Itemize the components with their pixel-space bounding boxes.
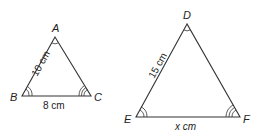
triangle-abc: A B C 10 cm 8 cm [10, 22, 102, 111]
vertex-b-label: B [10, 91, 17, 103]
vertex-a-label: A [51, 22, 59, 34]
side-ab-label: 10 cm [29, 49, 52, 78]
similar-triangles-diagram: A B C 10 cm 8 cm D E F 15 cm x cm [0, 0, 261, 137]
vertex-f-label: F [243, 113, 251, 125]
side-ef-variable: x cm [174, 121, 196, 132]
side-de-label: 15 cm [146, 51, 169, 80]
triangle-def: D E F 15 cm x cm [124, 9, 251, 132]
vertex-d-label: D [183, 9, 191, 21]
side-bc-label: 8 cm [43, 100, 65, 111]
side-ef-label: x cm [174, 121, 196, 132]
angle-d-mark [184, 30, 190, 31]
angle-c-mark [79, 86, 88, 97]
vertex-c-label: C [94, 91, 102, 103]
vertex-e-label: E [124, 113, 132, 125]
angle-a-mark [52, 43, 58, 44]
